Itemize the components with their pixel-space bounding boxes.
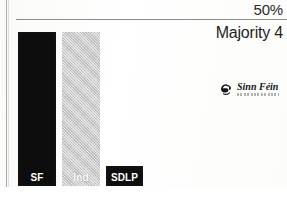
- bar-sdlp: SDLP: [106, 166, 143, 186]
- bar-chart-screenshot: 50% Majority 4 Sinn Féin SF Ind SDLP: [0, 0, 287, 200]
- bar-label-ind: Ind: [62, 172, 100, 183]
- bar-sf: SF: [18, 32, 56, 186]
- plot-area: SF Ind SDLP: [0, 0, 287, 200]
- bar-label-sf: SF: [18, 172, 56, 183]
- bar-ind: Ind: [62, 32, 100, 186]
- bottom-margin: [0, 187, 287, 200]
- bar-label-sdlp: SDLP: [106, 172, 143, 183]
